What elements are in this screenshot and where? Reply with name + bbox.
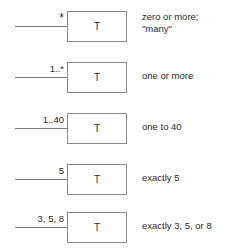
class-box: T <box>67 113 127 144</box>
class-name: T <box>94 222 100 233</box>
class-box: T <box>67 62 127 93</box>
description-line: "many" <box>142 23 199 35</box>
description: exactly 5 <box>142 172 180 184</box>
description-line: one or more <box>142 70 193 82</box>
class-name: T <box>94 174 100 185</box>
description: one to 40 <box>142 121 182 133</box>
class-name: T <box>94 21 100 32</box>
multiplicity-label: 5 <box>59 165 64 176</box>
multiplicity-row-exactly-3-5-8: 3, 5, 8 T exactly 3, 5, or 8 <box>0 212 236 246</box>
description: exactly 3, 5, or 8 <box>142 220 212 232</box>
association-line <box>15 179 67 180</box>
multiplicity-row-zero-or-more: * T zero or more; "many" <box>0 11 236 45</box>
multiplicity-label: 1..* <box>50 63 64 74</box>
description-line: exactly 5 <box>142 172 180 184</box>
description: zero or more; "many" <box>142 11 199 35</box>
description-line: zero or more; <box>142 11 199 23</box>
association-line <box>15 227 67 228</box>
class-box: T <box>67 164 127 195</box>
association-line <box>15 128 67 129</box>
multiplicity-label: * <box>59 11 64 25</box>
class-name: T <box>94 123 100 134</box>
class-name: T <box>94 72 100 83</box>
description: one or more <box>142 70 193 82</box>
description-line: one to 40 <box>142 121 182 133</box>
multiplicity-row-one-to-40: 1..40 T one to 40 <box>0 113 236 147</box>
class-box: T <box>67 11 127 42</box>
description-line: exactly 3, 5, or 8 <box>142 220 212 232</box>
multiplicity-label: 3, 5, 8 <box>38 213 64 224</box>
multiplicity-label: 1..40 <box>43 114 64 125</box>
association-line <box>15 77 67 78</box>
multiplicity-row-exactly-5: 5 T exactly 5 <box>0 164 236 198</box>
class-box: T <box>67 212 127 243</box>
multiplicity-row-one-or-more: 1..* T one or more <box>0 62 236 96</box>
association-line <box>15 26 67 27</box>
